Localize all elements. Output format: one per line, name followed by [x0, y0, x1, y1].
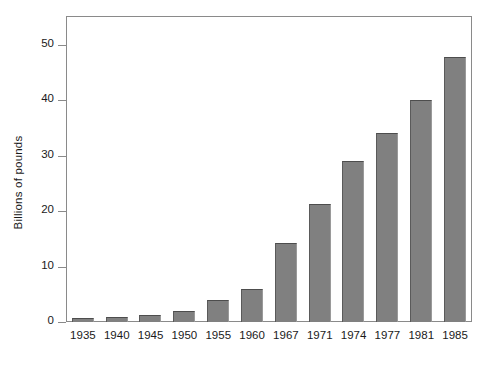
bar-1971: [309, 204, 331, 322]
y-axis-tick-10: [58, 267, 66, 268]
y-axis-tick-40: [58, 100, 66, 101]
bar-1940: [106, 317, 128, 321]
bar-1935: [72, 318, 94, 322]
bar-1974: [342, 161, 364, 322]
bar-1960: [241, 289, 263, 322]
bar-1981: [410, 100, 432, 322]
bar-1950: [173, 311, 195, 322]
y-axis-tick-30: [58, 156, 66, 157]
y-axis-label-40: 40: [20, 93, 54, 105]
y-axis-tick-0: [58, 322, 66, 323]
y-axis-label-20: 20: [20, 204, 54, 216]
y-axis-tick-50: [58, 45, 66, 46]
y-axis-title: Billions of pounds: [0, 0, 36, 365]
y-axis-label-10: 10: [20, 260, 54, 272]
bar-chart: Billions of pounds 01020304050 193519401…: [0, 0, 504, 365]
x-axis-label-1985: 1985: [431, 329, 479, 341]
bar-1977: [376, 133, 398, 322]
bar-1945: [139, 315, 161, 322]
y-axis-tick-20: [58, 211, 66, 212]
y-axis-label-50: 50: [20, 38, 54, 50]
bar-1967: [275, 243, 297, 322]
bar-1955: [207, 300, 229, 322]
y-axis-label-30: 30: [20, 149, 54, 161]
plot-area: [66, 16, 472, 322]
bar-1985: [444, 57, 466, 322]
y-axis-label-0: 0: [20, 315, 54, 327]
